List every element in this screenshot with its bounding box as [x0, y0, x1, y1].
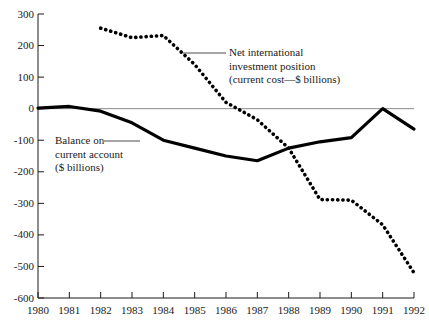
y-axis-tick-label: -500 [0, 261, 34, 272]
y-axis-tick-label: 300 [0, 9, 34, 20]
y-axis-tick-label: -400 [0, 229, 34, 240]
x-axis-tick-label: 1992 [394, 305, 429, 316]
y-axis-tick-label: 100 [0, 72, 34, 83]
annotation-line: Balance on [55, 134, 123, 148]
y-axis-tick-label: 200 [0, 40, 34, 51]
annotation-line: investment position [229, 60, 340, 74]
annotation-leader-lines [104, 53, 226, 141]
annotation-line: Net international [229, 46, 340, 60]
y-axis-tick-label: -100 [0, 135, 34, 146]
annotation-net-international-investment-position: Net international investment position (c… [229, 46, 340, 87]
annotation-line: ($ billions) [55, 161, 123, 175]
annotation-line: current account [55, 148, 123, 162]
annotation-balance-on-current-account: Balance on current account ($ billions) [55, 134, 123, 175]
y-axis-ticks [38, 14, 44, 298]
y-axis-tick-label: -300 [0, 198, 34, 209]
annotation-line: (current cost—$ billions) [229, 73, 340, 87]
y-axis-tick-label: 0 [0, 103, 34, 114]
x-axis-ticks [38, 292, 414, 298]
y-axis-tick-label: -600 [0, 293, 34, 304]
y-axis-tick-label: -200 [0, 166, 34, 177]
clipped-source-text [0, 318, 424, 328]
